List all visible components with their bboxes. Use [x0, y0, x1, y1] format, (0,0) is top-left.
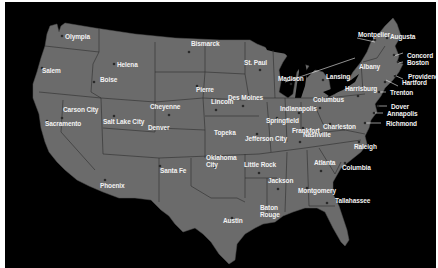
capital-label: Concord [407, 52, 433, 59]
capital-label: Topeka [214, 129, 236, 136]
capital-label: Dover [391, 103, 409, 110]
capital-dot [188, 51, 191, 54]
capital-dot [104, 179, 107, 182]
capital-dot [364, 122, 367, 125]
capital-dot [259, 69, 262, 72]
capital-dot [397, 61, 400, 64]
capital-label: Boston [407, 59, 429, 66]
capital-label: Columbia [342, 164, 371, 171]
capital-label: Salem [42, 67, 61, 74]
capital-dot [377, 105, 380, 108]
capital-label: Salt Lake City [103, 118, 144, 125]
us-capitals-map: OlympiaSalemHelenaBoiseBismarckSt. PaulP… [5, 2, 436, 268]
capital-label: Columbus [313, 96, 344, 103]
capital-label: Olympia [65, 33, 90, 40]
capital-dot [113, 115, 116, 118]
capital-dot [113, 63, 116, 66]
capital-label: Phoenix [100, 182, 125, 189]
capital-label: Charleston [323, 123, 356, 130]
capital-dot [393, 54, 396, 57]
capital-dot [277, 188, 280, 191]
capital-label: Indianapolis [280, 105, 317, 112]
capital-label: Raleigh [354, 143, 377, 150]
capital-dot [168, 114, 171, 117]
capital-label: Boise [100, 76, 117, 83]
capital-dot [319, 107, 322, 110]
capital-label: Denver [148, 124, 169, 131]
capital-label: Austin [223, 217, 243, 224]
capital-dot [299, 141, 302, 144]
capital-dot [61, 35, 64, 38]
capital-dot [326, 202, 329, 205]
capital-label: Harrisburg [345, 85, 377, 92]
capital-label: Richmond [386, 120, 417, 127]
land-mass [33, 18, 403, 264]
capital-label: Annapolis [387, 110, 418, 117]
capital-label: Jackson [268, 177, 293, 184]
capital-label: Carson City [63, 106, 98, 113]
capital-dot [215, 109, 218, 112]
capital-label: Lincoln [211, 98, 233, 105]
capital-label: Sacramento [45, 120, 81, 127]
capital-label: Jefferson City [245, 135, 287, 142]
capital-label: Pierre [196, 86, 214, 93]
capital-label: Hartford [402, 79, 427, 86]
capital-label: Montgomery [298, 187, 336, 194]
capital-dot [322, 79, 325, 82]
capital-dot [61, 117, 64, 120]
capital-label: Little Rock [244, 161, 276, 168]
capital-label: Montpelier [358, 31, 390, 38]
capital-label: Santa Fe [160, 167, 186, 174]
capital-dot [242, 105, 245, 108]
capital-label: St. Paul [244, 59, 267, 66]
capital-dot [298, 112, 301, 115]
capital-label: BatonRouge [260, 204, 280, 218]
capital-dot [320, 170, 323, 173]
capital-label: Springfield [266, 117, 299, 124]
capital-label: Helena [117, 61, 138, 68]
capital-label: OklahomaCity [206, 154, 237, 168]
capital-label: Atlanta [314, 159, 335, 166]
capital-dot [373, 112, 376, 115]
capital-dot [378, 91, 381, 94]
capital-label: Nashville [303, 131, 331, 138]
capital-label: Cheyenne [150, 103, 180, 110]
capital-dot [93, 81, 96, 84]
capital-label: Trenton [390, 89, 413, 96]
capital-label: Albany [359, 63, 380, 70]
capital-dot [258, 172, 261, 175]
capital-label: Augusta [390, 33, 415, 40]
capital-dot [357, 95, 360, 98]
capital-label: Madison [278, 75, 304, 82]
capital-dot [394, 75, 397, 78]
capital-label: Tallahassee [335, 197, 370, 204]
capital-dot [374, 39, 377, 42]
capital-dot [384, 81, 387, 84]
capital-dot [290, 83, 293, 86]
capital-label: Lansing [326, 73, 350, 80]
capital-label: Bismarck [191, 40, 219, 47]
